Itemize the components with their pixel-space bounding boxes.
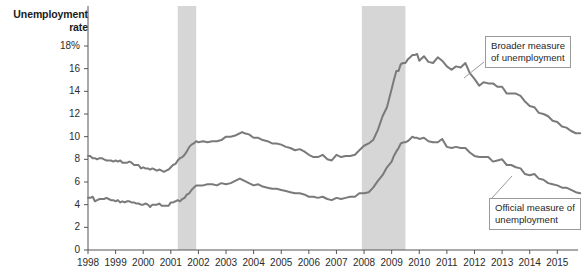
callout-broader-line2: of unemployment: [491, 52, 565, 64]
y-tick-label: 16: [32, 64, 80, 74]
recession-bands: [178, 6, 406, 250]
y-tick-label: 6: [32, 177, 80, 187]
y-tick-label: 4: [32, 200, 80, 210]
callout-broader-line1: Broader measure: [491, 40, 565, 52]
x-tick-label: 2015: [537, 258, 577, 268]
callout-official-line2: unemployment: [495, 214, 575, 226]
y-tick-label: 12: [32, 109, 80, 119]
series-line-0: [88, 54, 580, 172]
y-tick-label: 2: [32, 222, 80, 232]
data-series: [88, 54, 580, 207]
leader-official: [492, 176, 512, 198]
y-tick-label: 10: [32, 132, 80, 142]
recession-2001: [178, 6, 196, 250]
y-tick-label: 0: [32, 245, 80, 255]
y-tick-label: 14: [32, 86, 80, 96]
callout-official-line1: Official measure of: [495, 202, 575, 214]
y-tick-label: 8: [32, 154, 80, 164]
y-tick-label: 18%: [32, 41, 80, 51]
callout-official-measure: Official measure of unemployment: [489, 198, 581, 230]
callout-broader-measure: Broader measure of unemployment: [485, 36, 571, 68]
recession-2008: [362, 6, 406, 250]
axis-ticks: [84, 46, 557, 254]
unemployment-rate-chart: Unemployment rate 18%1614121086420 19981…: [0, 0, 584, 275]
